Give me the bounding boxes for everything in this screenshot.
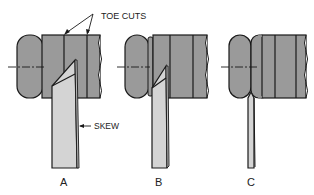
panel-label-a: A bbox=[60, 176, 68, 188]
panel-c: C bbox=[221, 35, 308, 188]
workpiece-body-c bbox=[262, 35, 306, 98]
skew-label: SKEW bbox=[94, 121, 119, 131]
arrowhead-icon bbox=[79, 124, 84, 128]
panel-label-c: C bbox=[247, 176, 255, 188]
arrowhead-icon bbox=[86, 29, 90, 35]
panel-label-b: B bbox=[155, 176, 162, 188]
toe-cuts-label: TOE CUTS bbox=[101, 11, 146, 21]
tool-c bbox=[248, 92, 254, 168]
workpiece-lobe-c bbox=[229, 35, 251, 98]
arrowhead-icon bbox=[64, 29, 70, 35]
tool-side-b bbox=[166, 66, 169, 168]
panel-b: B bbox=[117, 35, 209, 188]
panel-a: TOE CUTS SKEW A bbox=[8, 11, 146, 188]
toe-cuts-diagram: TOE CUTS SKEW A B C bbox=[0, 0, 314, 195]
workpiece-lobe-b bbox=[125, 35, 149, 98]
workpiece-lobe-a bbox=[17, 35, 43, 98]
